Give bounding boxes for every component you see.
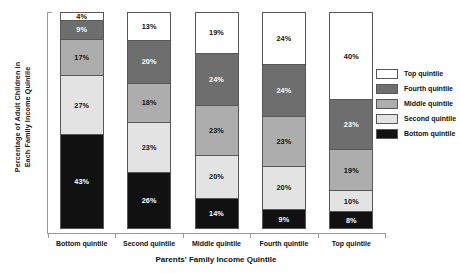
legend-swatch [376, 114, 398, 124]
bar-segment-value: 43% [74, 177, 89, 186]
bar-segment-value: 20% [276, 183, 291, 192]
bar-segment-value: 8% [346, 216, 357, 225]
bar-segment-value: 10% [344, 197, 359, 206]
bar-segment: 27% [60, 75, 104, 135]
bar-segment-value: 23% [276, 137, 291, 146]
x-axis-line [47, 233, 385, 234]
bar-bottom-quintile: 4%9%17%27%43% [60, 12, 104, 233]
legend-item: Middle quintile [376, 96, 456, 111]
bar-segment: 43% [60, 134, 104, 229]
bar-segment: 24% [262, 64, 306, 117]
y-axis-title-line-1: Percentage of Adult Children in [13, 61, 23, 171]
bar-segment: 24% [262, 12, 306, 65]
bar-top-quintile: 40%23%19%10%8% [329, 12, 373, 233]
bar-segment-value: 24% [209, 75, 224, 84]
legend-label: Fourth quintile [404, 85, 453, 92]
bar-segment-value: 19% [344, 166, 359, 175]
bar-segment: 19% [195, 12, 239, 54]
bar-segment: 26% [127, 172, 171, 229]
x-axis-tick [115, 233, 116, 238]
x-axis-category-label: Bottom quintile [48, 240, 115, 247]
legend-swatch [376, 129, 398, 139]
bar-segment: 24% [195, 53, 239, 106]
bar-segment-value: 23% [344, 120, 359, 129]
bar-segment-value: 26% [142, 196, 157, 205]
bar-segment-value: 24% [276, 86, 291, 95]
bar-segment: 20% [195, 155, 239, 199]
bar-segment: 23% [329, 99, 373, 150]
legend-swatch [376, 84, 398, 94]
legend-item: Bottom quintile [376, 126, 456, 141]
bar-segment: 23% [127, 122, 171, 173]
bar-segment-value: 17% [74, 53, 89, 62]
bar-fourth-quintile: 24%24%23%20%9% [262, 12, 306, 233]
legend-item: Second quintile [376, 111, 456, 126]
chart-legend: Top quintileFourth quintileMiddle quinti… [376, 66, 456, 141]
bar-segment-value: 27% [74, 101, 89, 110]
bar-segment: 10% [329, 190, 373, 212]
bar-segment-value: 23% [142, 143, 157, 152]
bar-segment: 40% [329, 12, 373, 100]
bar-segment-value: 23% [209, 126, 224, 135]
y-axis-title-line-2: Each Family Income Quintile [23, 61, 33, 171]
x-axis-tick [250, 233, 251, 238]
legend-label: Bottom quintile [404, 130, 455, 137]
bar-segment-value: 9% [76, 25, 87, 34]
bar-segment: 23% [195, 105, 239, 156]
bar-segment-value: 20% [142, 57, 157, 66]
bar-segment-value: 18% [142, 98, 157, 107]
bar-segment-value: 20% [209, 172, 224, 181]
x-axis-category-label: Middle quintile [183, 240, 250, 247]
bar-segment: 8% [329, 211, 373, 229]
x-axis-tick [318, 233, 319, 238]
bar-segment: 9% [60, 20, 104, 40]
bar-segment-value: 24% [276, 34, 291, 43]
bar-segment-value: 13% [142, 22, 157, 31]
x-axis-tick [183, 233, 184, 238]
bar-segment-value: 9% [279, 215, 290, 224]
x-axis-category-label: Fourth quintile [250, 240, 317, 247]
plot-area: 4%9%17%27%43%13%20%18%23%26%19%24%23%20%… [48, 12, 385, 233]
bar-segment: 19% [329, 149, 373, 191]
bar-segment: 17% [60, 39, 104, 77]
legend-label: Top quintile [404, 70, 443, 77]
bar-segment: 9% [262, 209, 306, 229]
legend-label: Second quintile [404, 115, 456, 122]
legend-item: Top quintile [376, 66, 456, 81]
bar-segment: 14% [195, 198, 239, 229]
bar-segment: 23% [262, 116, 306, 167]
bar-segment-value: 40% [344, 52, 359, 61]
bar-middle-quintile: 19%24%23%20%14% [195, 12, 239, 233]
bar-second-quintile: 13%20%18%23%26% [127, 12, 171, 233]
bar-segment: 13% [127, 12, 171, 41]
x-axis-title: Parents' Family Income Quintile [47, 255, 385, 264]
bar-segment: 20% [262, 166, 306, 210]
legend-label: Middle quintile [404, 100, 453, 107]
stacked-bar-chart: Percentage of Adult Children in Each Fam… [0, 0, 460, 273]
bar-segment-value: 14% [209, 209, 224, 218]
x-axis-category-label: Second quintile [115, 240, 182, 247]
legend-swatch [376, 99, 398, 109]
bar-segment: 18% [127, 83, 171, 123]
y-axis-title: Percentage of Adult Children in Each Fam… [0, 0, 46, 233]
x-axis-tick [385, 233, 386, 238]
x-axis-tick [48, 233, 49, 238]
bar-segment: 20% [127, 40, 171, 84]
legend-item: Fourth quintile [376, 81, 456, 96]
bar-segment-value: 19% [209, 28, 224, 37]
legend-swatch [376, 69, 398, 79]
x-axis-category-label: Top quintile [318, 240, 385, 247]
